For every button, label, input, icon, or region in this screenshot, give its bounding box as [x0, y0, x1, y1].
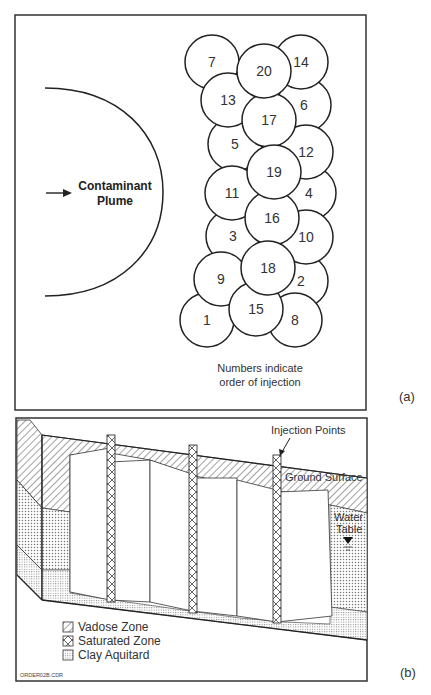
plume-label-line2: Plume [97, 194, 133, 208]
file-name-label: ORDER02B.CDR [20, 672, 63, 678]
injection-order-label: 6 [300, 97, 308, 113]
injection-note-line2: order of injection [219, 376, 300, 388]
legend-swatch-saturated [63, 636, 73, 646]
injection-circle-19: 19 [247, 145, 301, 199]
injection-order-label: 11 [225, 185, 240, 201]
injection-order-label: 9 [217, 271, 225, 287]
injection-order-label: 16 [264, 210, 280, 226]
legend-label-vadose: Vadose Zone [78, 620, 149, 634]
plume-label-line1: Contaminant [78, 179, 151, 193]
panel-a: Contaminant Plume 1234567891011121314151… [15, 15, 366, 410]
treated-column-6 [277, 490, 332, 622]
saturated-zone-band [42, 508, 70, 570]
injection-order-label: 2 [297, 273, 305, 289]
panel-b: Injection Points Ground Surface Water Ta… [16, 418, 367, 681]
legend-label-clay: Clay Aquitard [78, 648, 149, 662]
treated-column-3 [150, 460, 192, 611]
injection-order-label: 13 [220, 92, 236, 108]
legend-label-saturated: Saturated Zone [78, 634, 161, 648]
injection-circle-20: 20 [237, 44, 291, 98]
legend-swatch-clay [63, 650, 73, 660]
treated-column-4 [192, 478, 237, 616]
treated-column-1 [70, 448, 110, 600]
legend-swatch-vadose [63, 622, 73, 632]
figure-canvas: Contaminant Plume 1234567891011121314151… [0, 0, 431, 695]
injection-order-label: 19 [266, 164, 282, 180]
injection-order-label: 18 [260, 260, 276, 276]
injection-order-label: 14 [293, 54, 309, 70]
water-table-label-line1: Water [334, 511, 363, 523]
injection-circle-17: 17 [242, 93, 296, 147]
ground-surface-label: Ground Surface [285, 471, 363, 483]
legend: Vadose Zone Saturated Zone Clay Aquitard [63, 620, 161, 662]
injection-point-3 [273, 455, 281, 623]
injection-order-label: 7 [208, 54, 216, 70]
injection-order-label: 20 [256, 63, 272, 79]
injection-order-label: 10 [298, 229, 314, 245]
injection-order-label: 15 [248, 301, 264, 317]
injection-points-label: Injection Points [271, 424, 346, 436]
injection-order-label: 5 [231, 136, 239, 152]
treated-column-5 [237, 480, 277, 622]
injection-circle-18: 18 [241, 241, 295, 295]
injection-point-2 [189, 445, 197, 613]
injection-order-label: 4 [305, 185, 313, 201]
injection-order-label: 17 [261, 112, 277, 128]
water-table-label-line2: Table [336, 523, 362, 535]
injection-note-line1: Numbers indicate [217, 362, 303, 374]
treated-column-2 [110, 460, 150, 602]
injection-order-label: 3 [229, 228, 237, 244]
injection-order-label: 1 [203, 312, 211, 328]
injection-point-1 [107, 435, 115, 602]
injection-order-label: 12 [298, 144, 314, 160]
panel-b-tag: (b) [400, 665, 416, 680]
panel-a-tag: (a) [399, 389, 415, 404]
injection-order-label: 8 [291, 312, 299, 328]
